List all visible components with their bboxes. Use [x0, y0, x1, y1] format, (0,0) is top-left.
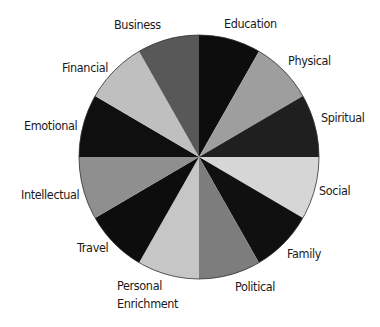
label-education: Education	[224, 15, 277, 32]
label-travel: Travel	[77, 239, 108, 256]
label-physical: Physical	[288, 52, 331, 69]
label-business: Business	[114, 16, 161, 33]
label-political: Political	[235, 278, 275, 295]
label-family: Family	[287, 245, 321, 262]
label-personal-enrichment-line1: Personal	[117, 277, 162, 294]
label-social: Social	[319, 182, 350, 199]
label-emotional: Emotional	[24, 117, 77, 134]
label-spiritual: Spiritual	[321, 109, 364, 126]
label-financial: Financial	[62, 59, 108, 76]
pie-slices	[79, 35, 319, 279]
label-personal-enrichment-line2: Enrichment	[117, 295, 178, 312]
pie-chart	[0, 0, 380, 327]
label-intellectual: Intellectual	[21, 186, 79, 203]
